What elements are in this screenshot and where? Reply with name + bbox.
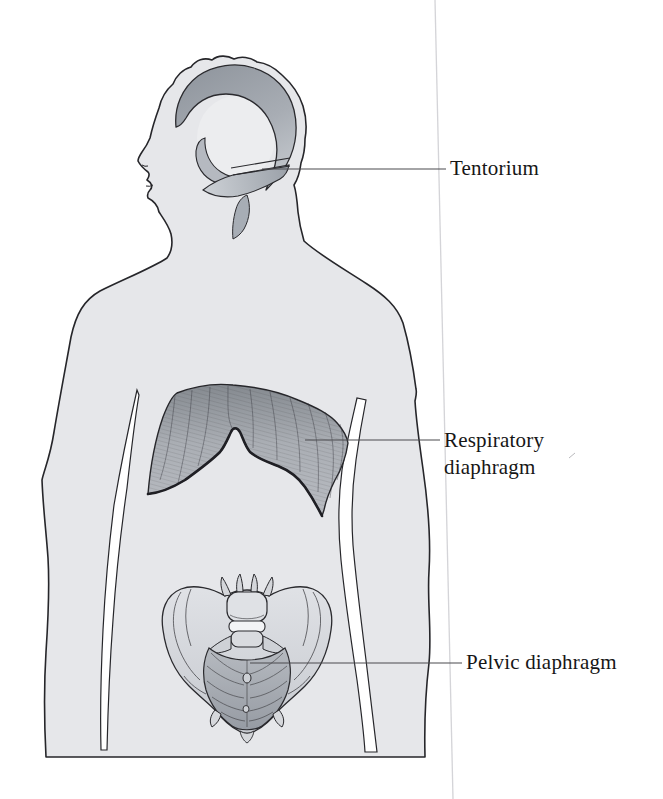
anal-aperture xyxy=(243,673,251,683)
sacral-segment xyxy=(231,631,263,647)
figure-canvas xyxy=(0,0,663,799)
label-respiratory-diaphragm: Respiratory diaphragm xyxy=(444,427,544,481)
label-tentorium: Tentorium xyxy=(450,155,539,182)
vertebral-body xyxy=(227,592,267,622)
intervertebral-disc xyxy=(229,621,265,632)
page-speck xyxy=(569,453,575,458)
label-pelvic-diaphragm: Pelvic diaphragm xyxy=(466,649,617,676)
diagram-page: Tentorium Respiratory diaphragm Pelvic d… xyxy=(0,0,663,799)
lower-aperture xyxy=(243,706,249,713)
page-fold-line xyxy=(435,0,453,799)
lip-line xyxy=(146,185,153,186)
